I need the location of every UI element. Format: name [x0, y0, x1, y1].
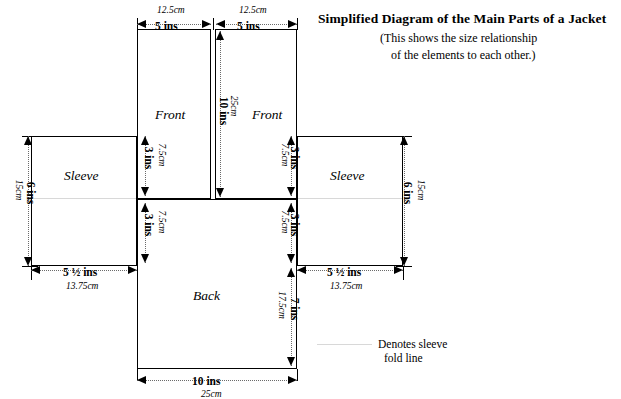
dimension-front-left-armhole-cm: 7.5cm — [157, 133, 167, 177]
dimension-sleeve-right-height-inches: 6 ins — [402, 173, 414, 213]
dimension-top-left-cm: 12.5cm — [157, 5, 185, 15]
label-front-right: Front — [252, 107, 282, 123]
dimension-back-right-armhole-inches: 3 ins — [289, 205, 301, 245]
dimension-sleeve-left-width-cm: 13.75cm — [66, 281, 98, 291]
page-title: Simplified Diagram of the Main Parts of … — [318, 11, 606, 27]
dimension-front-right-armhole-cm: 7.5cm — [280, 133, 290, 177]
dimension-top-right-inches: 5 ins — [237, 20, 260, 32]
panel-sleeve-left — [31, 136, 137, 266]
dimension-sleeve-right-width-inches: 5 ½ ins — [327, 266, 361, 278]
dimension-back-left-armhole-cm: 7.5cm — [157, 200, 167, 244]
dimension-back-height-cm: 17.5cm — [277, 281, 287, 329]
label-sleeve-left: Sleeve — [64, 168, 98, 184]
witness-top-center — [213, 18, 214, 30]
label-back: Back — [193, 288, 220, 304]
subtitle-line-1: (This shows the size relationship — [380, 31, 537, 46]
dimension-bottom-width-cm: 25cm — [201, 389, 222, 399]
sleeve-fold-line-left — [32, 198, 136, 199]
witness-sleeve-right-edge — [403, 266, 404, 280]
dimension-sleeve-right-height-cm: 15cm — [416, 169, 426, 211]
label-front-left: Front — [155, 107, 185, 123]
legend-text-line-1: Denotes sleeve — [378, 337, 447, 351]
sleeve-fold-line-right — [298, 198, 402, 199]
legend-fold-line-sample — [317, 344, 372, 345]
panel-sleeve-right — [297, 136, 403, 266]
dimension-front-left-armhole-inches: 3 ins — [143, 138, 155, 178]
dimension-front-right-armhole-inches: 3 ins — [289, 138, 301, 178]
label-sleeve-right: Sleeve — [330, 168, 364, 184]
dimension-sleeve-left-width-inches: 5 ½ ins — [63, 266, 97, 278]
dimension-sleeve-left-height-inches: 6 ins — [25, 173, 37, 213]
legend-text-line-2: fold line — [384, 351, 423, 365]
dimension-back-right-armhole-cm: 7.5cm — [280, 200, 290, 244]
dimension-top-left-inches: 5 ins — [155, 20, 178, 32]
dimension-sleeve-left-height-cm: 15cm — [14, 169, 24, 211]
dimension-bottom-width-inches: 10 ins — [192, 375, 220, 387]
dimension-top-right-cm: 12.5cm — [239, 5, 267, 15]
dimension-back-height-inches: 7 ins — [289, 288, 301, 330]
dimension-back-left-armhole-inches: 3 ins — [143, 205, 155, 245]
dimension-center-front-cm: 25cm — [229, 84, 239, 128]
dimension-sleeve-right-width-cm: 13.75cm — [330, 281, 362, 291]
witness-bottom-right — [297, 369, 298, 381]
witness-top-right — [297, 18, 298, 30]
subtitle-line-2: of the elements to each other.) — [391, 48, 536, 63]
jacket-pattern-diagram: Simplified Diagram of the Main Parts of … — [0, 0, 621, 399]
